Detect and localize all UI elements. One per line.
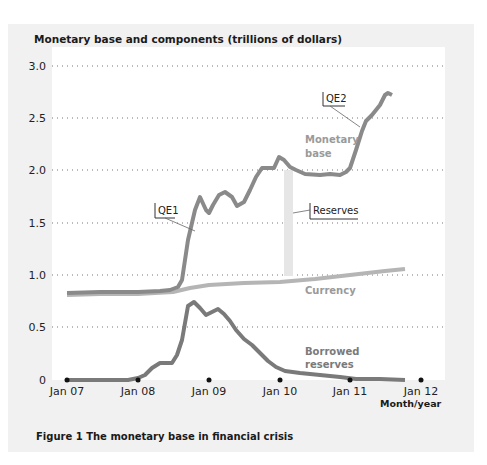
ytick-2.5: 2.5 <box>29 112 47 125</box>
label-borrowed-line2: reserves <box>305 359 354 370</box>
xtick-jan08: Jan 08 <box>120 385 155 398</box>
annotation-qe1: QE1 <box>155 203 195 231</box>
qe1-label: QE1 <box>158 205 179 216</box>
x-axis-label: Month/year <box>380 398 441 409</box>
xtick-jan10: Jan 10 <box>262 385 297 398</box>
reserves-label: Reserves <box>313 205 358 216</box>
ytick-1.5: 1.5 <box>29 217 47 230</box>
label-monetary-base-line1: Monetary <box>305 134 359 145</box>
ytick-2.0: 2.0 <box>29 164 47 177</box>
ytick-1.0: 1.0 <box>29 269 47 282</box>
reserves-gap-bar <box>284 170 293 276</box>
xtick-dot-jan09 <box>207 378 212 383</box>
annotation-qe2: QE2 <box>323 92 360 127</box>
xtick-jan09: Jan 09 <box>191 385 226 398</box>
xtick-dot-jan12 <box>419 378 424 383</box>
xtick-dot-jan10 <box>278 378 283 383</box>
qe2-label: QE2 <box>326 93 347 104</box>
ytick-3.0: 3.0 <box>29 60 47 73</box>
xtick-jan07: Jan 07 <box>49 385 84 398</box>
xtick-jan11: Jan 11 <box>332 385 367 398</box>
xtick-jan12: Jan 12 <box>403 385 438 398</box>
xtick-dot-jan11 <box>348 378 353 383</box>
annotation-reserves: Reserves <box>293 203 358 219</box>
series-borrowed-reserves <box>67 302 405 380</box>
figure-caption: Figure 1 The monetary base in financial … <box>36 431 293 442</box>
y-axis-ticks: 0 0.5 1.0 1.5 2.0 2.5 3.0 <box>29 60 47 387</box>
ytick-0: 0 <box>39 374 46 387</box>
series-monetary-base <box>67 93 392 293</box>
label-currency: Currency <box>305 285 356 296</box>
label-monetary-base-line2: base <box>305 148 332 159</box>
ytick-0.5: 0.5 <box>29 321 47 334</box>
xtick-dot-jan07 <box>65 378 70 383</box>
label-borrowed-line1: Borrowed <box>305 346 359 357</box>
xtick-dot-jan08 <box>136 378 141 383</box>
line-chart: 0 0.5 1.0 1.5 2.0 2.5 3.0 Jan 07 Jan 08 … <box>0 0 487 465</box>
